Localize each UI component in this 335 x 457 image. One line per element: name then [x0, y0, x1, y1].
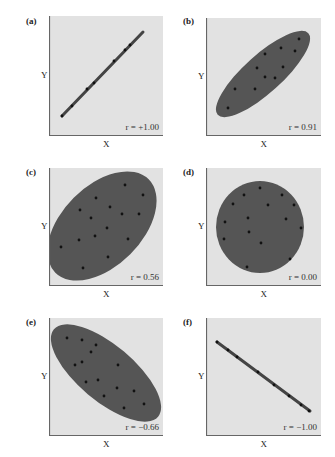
y-axis-label: Y: [41, 221, 48, 231]
correlation-coefficient-label: r = +1.00: [126, 122, 160, 132]
data-point: [246, 266, 249, 269]
panel-label-b: (b): [183, 16, 194, 26]
scatter-plot-c: r = 0.56: [49, 168, 163, 286]
correlation-coefficient-label: r = 0.91: [289, 122, 317, 132]
data-point: [85, 381, 88, 384]
data-point: [247, 217, 250, 220]
data-point: [66, 337, 69, 340]
data-point: [86, 88, 89, 91]
data-point: [234, 88, 237, 91]
data-point: [285, 218, 288, 221]
x-axis-label: X: [261, 439, 268, 449]
data-point: [227, 349, 230, 352]
data-point: [298, 38, 301, 41]
data-point: [124, 184, 127, 187]
data-point: [95, 344, 98, 347]
data-point: [123, 407, 126, 410]
data-point: [90, 217, 93, 220]
x-axis-label: X: [103, 289, 110, 299]
data-point: [254, 88, 257, 91]
panel-label-a: (a): [26, 16, 37, 26]
x-axis-label: X: [103, 439, 110, 449]
panel-label-c: (c): [26, 167, 36, 177]
y-axis-label: Y: [41, 371, 48, 381]
data-point: [60, 246, 63, 249]
plot-background: [49, 16, 163, 136]
y-axis-label: Y: [198, 221, 205, 231]
data-point: [288, 395, 291, 398]
data-point: [121, 213, 124, 216]
data-point: [103, 395, 106, 398]
x-axis-label: X: [103, 139, 110, 149]
data-point: [124, 49, 127, 52]
data-point: [274, 77, 277, 80]
scatter-plot-b: r = 0.91: [206, 18, 321, 136]
data-point: [227, 107, 230, 110]
data-point: [129, 44, 132, 47]
data-point: [256, 67, 259, 70]
data-point: [243, 194, 246, 197]
data-point: [74, 364, 77, 367]
x-axis-label: X: [261, 139, 268, 149]
data-point: [79, 209, 82, 212]
y-axis-label: Y: [198, 371, 205, 381]
data-point: [78, 239, 81, 242]
scatter-plot-d: r = 0.00: [206, 168, 321, 286]
scatter-plot-f: r = −1.00: [206, 318, 321, 436]
data-point: [236, 356, 239, 359]
data-point: [232, 203, 235, 206]
data-point: [264, 53, 267, 56]
data-point: [264, 76, 267, 79]
data-point: [81, 361, 84, 364]
data-point: [216, 341, 219, 344]
data-point: [127, 238, 130, 241]
data-point: [223, 238, 226, 241]
correlation-coefficient-label: r = 0.00: [289, 272, 318, 282]
data-point: [133, 390, 136, 393]
data-point: [293, 204, 296, 207]
data-point: [93, 82, 96, 85]
data-point: [113, 60, 116, 63]
y-axis-label: Y: [41, 70, 48, 80]
data-point: [106, 227, 109, 230]
correlation-coefficient-label: r = −0.66: [126, 422, 160, 432]
data-point: [142, 194, 145, 197]
data-point: [95, 197, 98, 200]
data-point: [143, 403, 146, 406]
data-point: [281, 194, 284, 197]
x-axis-label: X: [261, 289, 268, 299]
data-point: [273, 384, 276, 387]
data-point: [94, 235, 97, 238]
correlation-coefficient-label: r = 0.56: [131, 272, 160, 282]
scatter-plot-e: r = −0.66: [49, 318, 163, 436]
data-point: [107, 256, 110, 259]
data-point: [259, 187, 262, 190]
correlation-coefficient-label: r = −1.00: [284, 422, 318, 432]
data-point: [90, 351, 93, 354]
panel-label-f: (f): [183, 317, 192, 327]
panel-label-d: (d): [183, 167, 194, 177]
data-point: [300, 227, 303, 230]
data-point: [260, 242, 263, 245]
data-point: [81, 339, 84, 342]
data-point: [61, 115, 64, 118]
data-point: [282, 66, 285, 69]
data-point: [308, 410, 311, 413]
data-point: [97, 379, 100, 382]
panel-label-e: (e): [26, 317, 36, 327]
y-axis-label: Y: [198, 71, 205, 81]
data-point: [280, 47, 283, 50]
data-point: [257, 371, 260, 374]
data-point: [138, 213, 141, 216]
data-point: [289, 258, 292, 261]
data-point: [224, 221, 227, 224]
data-point: [116, 387, 119, 390]
data-point: [109, 206, 112, 209]
scatter-plot-a: r = +1.00: [49, 16, 163, 136]
data-point: [248, 231, 251, 234]
data-point: [82, 267, 85, 270]
data-point: [294, 50, 297, 53]
data-point: [117, 364, 120, 367]
data-point: [267, 204, 270, 207]
data-point: [300, 404, 303, 407]
